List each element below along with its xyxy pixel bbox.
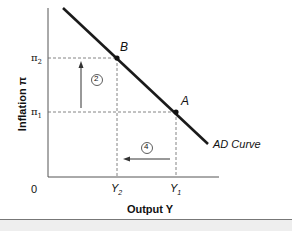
y1-tick: Y1	[170, 182, 181, 196]
pi1-subscript: 1	[38, 112, 42, 120]
ad-curve-label: AD Curve	[213, 138, 261, 150]
arrow-left-icon	[123, 157, 130, 162]
y1-subscript: 1	[177, 189, 181, 196]
bottom-band	[0, 219, 292, 231]
ad-curve-diagram: Inflation π Output Y π2 π1 0 Y2 Y1 B A A…	[0, 0, 292, 231]
y2-tick: Y2	[111, 182, 122, 196]
pi2-subscript: 2	[38, 58, 42, 66]
point-a-marker	[173, 109, 178, 114]
point-a-label: A	[181, 94, 189, 108]
pi1-symbol: π	[31, 106, 38, 117]
point-b-label: B	[120, 40, 128, 54]
origin-label: 0	[31, 183, 37, 195]
point-b-marker	[114, 55, 119, 60]
chart-canvas	[0, 0, 292, 231]
y2-subscript: 2	[118, 189, 122, 196]
y-axis-label: Inflation π	[16, 64, 28, 144]
step-2-label: 2	[94, 74, 98, 83]
x-axis-label: Output Y	[100, 203, 200, 215]
ad-curve-line	[63, 8, 208, 144]
pi2-symbol: π	[31, 52, 38, 63]
arrow-up-icon	[79, 61, 84, 68]
step-4-label: 4	[144, 142, 148, 151]
pi2-tick: π2	[31, 52, 42, 66]
pi1-tick: π1	[31, 106, 42, 120]
